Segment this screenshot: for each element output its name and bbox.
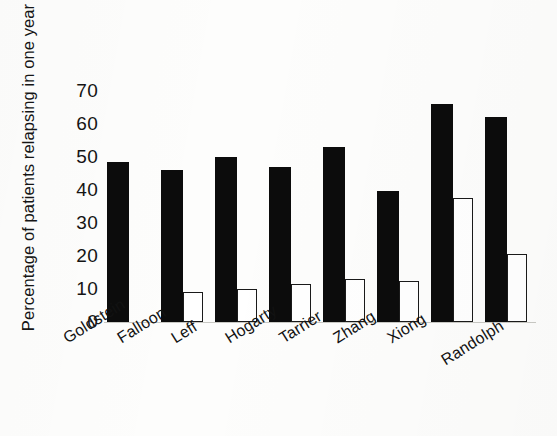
x-axis-tick-labels: GoldsteinFalloonLeffHogartyTarrierZhangX…	[0, 322, 557, 436]
y-tick-label: 30	[56, 212, 98, 234]
y-tick-label: 40	[56, 179, 98, 201]
bar-group	[485, 84, 539, 322]
bar-black	[269, 167, 291, 322]
bar-black	[323, 147, 345, 322]
bar-group	[269, 84, 323, 322]
bar-black	[485, 117, 507, 322]
y-axis-title: Percentage of patients relapsing in one …	[19, 3, 38, 333]
bar-white	[507, 254, 527, 322]
bar-black	[431, 104, 453, 322]
y-tick-label: 10	[56, 278, 98, 300]
bar-group	[377, 84, 431, 322]
bar-group	[323, 84, 377, 322]
x-tick-label: Randolph	[438, 317, 507, 369]
bar-group	[161, 84, 215, 322]
y-tick-label: 50	[56, 146, 98, 168]
bar-group	[431, 84, 485, 322]
bar-black	[161, 170, 183, 322]
bar-black	[377, 191, 399, 322]
bar-white	[183, 292, 203, 322]
bar-group	[107, 84, 161, 322]
bar-white	[453, 198, 473, 322]
bar-group	[215, 84, 269, 322]
y-tick-label: 20	[56, 245, 98, 267]
y-tick-label: 70	[56, 80, 98, 102]
x-tick-label: Leff	[168, 318, 201, 348]
plot-area	[104, 84, 536, 322]
y-tick-label: 60	[56, 113, 98, 135]
bar-black	[215, 157, 237, 322]
bar-chart: Percentage of patients relapsing in one …	[0, 0, 557, 436]
